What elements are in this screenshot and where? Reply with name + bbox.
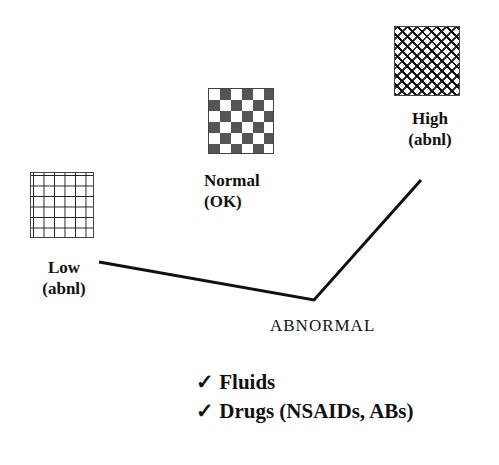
checkmark-icon: ✓ <box>196 399 214 423</box>
low-pattern-box <box>30 172 94 238</box>
high-label-line1: High <box>400 108 460 129</box>
normal-label-line2: (OK) <box>204 191 284 212</box>
high-label-line2: (abnl) <box>400 129 460 150</box>
treatment-item: ✓ Fluids <box>196 368 414 397</box>
high-label: High (abnl) <box>400 108 460 150</box>
normal-label: Normal (OK) <box>204 170 284 212</box>
normal-pattern-box <box>208 88 274 154</box>
normal-label-line1: Normal <box>204 170 284 191</box>
treatment-label: Drugs (NSAIDs, ABs) <box>219 399 413 423</box>
abnormal-label: ABNORMAL <box>270 316 375 336</box>
high-pattern-box <box>394 26 460 96</box>
low-label: Low (abnl) <box>34 257 94 299</box>
treatment-item: ✓ Drugs (NSAIDs, ABs) <box>196 397 414 426</box>
checkmark-icon: ✓ <box>196 370 214 394</box>
low-label-line1: Low <box>34 257 94 278</box>
treatment-list: ✓ Fluids ✓ Drugs (NSAIDs, ABs) <box>196 368 414 426</box>
treatment-label: Fluids <box>219 370 275 394</box>
low-label-line2: (abnl) <box>34 278 94 299</box>
